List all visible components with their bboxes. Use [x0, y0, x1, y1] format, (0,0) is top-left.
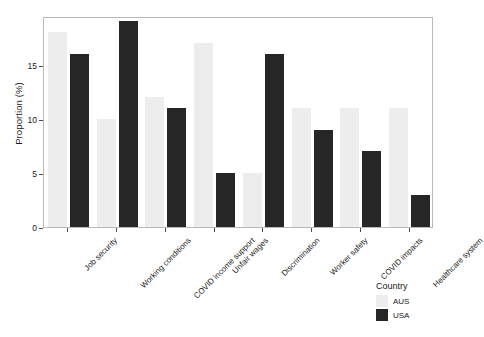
bar-usa-4 — [265, 54, 284, 227]
y-tick-label: 10 — [28, 115, 37, 125]
x-tick-mark — [116, 228, 117, 232]
legend-label: USA — [393, 311, 409, 320]
bar-usa-0 — [70, 54, 89, 227]
y-tick-label: 0 — [32, 223, 37, 233]
x-tick-mark — [214, 228, 215, 232]
legend-swatch-icon — [376, 295, 388, 307]
x-tick-mark — [262, 228, 263, 232]
x-tick-label: Worker safety — [329, 236, 370, 277]
bar-usa-7 — [411, 195, 430, 227]
bar-aus-2 — [145, 97, 164, 227]
x-tick-mark — [360, 228, 361, 232]
x-tick-mark — [165, 228, 166, 232]
x-tick-label: Discrimination — [280, 236, 322, 278]
legend: Country AUSUSA — [376, 281, 448, 323]
legend-label: AUS — [393, 297, 409, 306]
x-tick-label: COVID impacts — [379, 236, 424, 281]
y-axis-ticks: 051015 — [0, 0, 43, 229]
bar-usa-2 — [167, 108, 186, 227]
bar-usa-6 — [362, 151, 381, 227]
bar-aus-3 — [194, 43, 213, 227]
y-tick-label: 15 — [28, 61, 37, 71]
y-tick-label: 5 — [32, 169, 37, 179]
legend-title: Country — [376, 281, 448, 291]
x-tick-mark — [67, 228, 68, 232]
plot-panel — [43, 17, 433, 228]
x-tick-label: Job security — [83, 236, 120, 273]
bar-aus-5 — [292, 108, 311, 227]
bars-container — [44, 18, 432, 227]
bar-aus-0 — [48, 32, 67, 227]
bar-aus-1 — [97, 119, 116, 227]
x-tick-mark — [311, 228, 312, 232]
legend-swatch-icon — [376, 309, 388, 321]
x-tick-label: COVID income support — [192, 236, 257, 301]
x-tick-label: Working conditions — [139, 236, 193, 290]
bar-usa-3 — [216, 173, 235, 227]
legend-item-aus[interactable]: AUS — [376, 295, 448, 307]
bar-usa-5 — [314, 130, 333, 227]
legend-entries: AUSUSA — [376, 295, 448, 321]
bar-aus-6 — [340, 108, 359, 227]
bar-aus-4 — [243, 173, 262, 227]
y-tick-mark — [39, 228, 43, 229]
bar-aus-7 — [389, 108, 408, 227]
bar-usa-1 — [119, 21, 138, 227]
legend-item-usa[interactable]: USA — [376, 309, 448, 321]
x-tick-mark — [409, 228, 410, 232]
